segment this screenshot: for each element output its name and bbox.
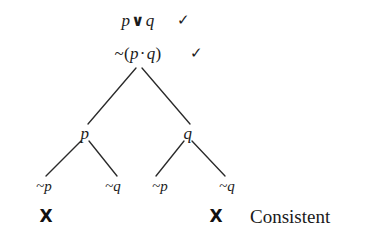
- leaf-3: ~p: [152, 179, 168, 194]
- branch-node-q: q: [184, 125, 193, 142]
- leaf-3-atom: p: [160, 178, 168, 194]
- premise-1-right-operand: q: [146, 11, 155, 30]
- premise-2-checkmark-icon: ✓: [190, 46, 203, 61]
- leaf-3-negation-symbol: ~: [152, 178, 160, 194]
- leaf-4: ~q: [219, 179, 235, 194]
- edge-p-right: [89, 141, 117, 176]
- tree-branch-lines: [0, 0, 387, 238]
- premise-2-left-operand: p: [130, 44, 139, 63]
- leaf-2-atom: q: [113, 178, 121, 194]
- leaf-1-negation-symbol: ~: [36, 178, 44, 194]
- leaf-4-negation-symbol: ~: [219, 178, 227, 194]
- disjunction-operator-icon: ∨: [130, 12, 145, 29]
- leaf-4-atom: q: [227, 178, 235, 194]
- premise-2: ~(p·q): [114, 45, 161, 62]
- leaf-2: ~q: [105, 179, 121, 194]
- edge-root-right: [142, 68, 190, 124]
- edge-root-left: [88, 68, 136, 124]
- premise-1: p∨q: [122, 12, 155, 29]
- premise-2-close-paren: ): [156, 44, 162, 63]
- close-mark-2: X: [209, 208, 222, 225]
- leaf-2-negation-symbol: ~: [105, 178, 113, 194]
- edge-q-left: [156, 141, 184, 176]
- branch-node-p: p: [81, 125, 90, 142]
- leaf-1: ~p: [36, 179, 52, 194]
- verdict-label: Consistent: [250, 207, 330, 226]
- truth-tree-diagram: p∨q ✓ ~(p·q) ✓ p q ~p ~q ~p ~q X X Consi…: [0, 0, 387, 238]
- edge-q-right: [192, 141, 225, 176]
- leaf-1-atom: p: [44, 178, 52, 194]
- edge-p-left: [46, 141, 81, 176]
- premise-2-right-operand: q: [147, 44, 156, 63]
- premise-1-checkmark-icon: ✓: [177, 13, 190, 28]
- close-mark-1: X: [39, 208, 52, 225]
- negation-symbol: ~: [114, 44, 124, 63]
- premise-1-left-operand: p: [122, 11, 131, 30]
